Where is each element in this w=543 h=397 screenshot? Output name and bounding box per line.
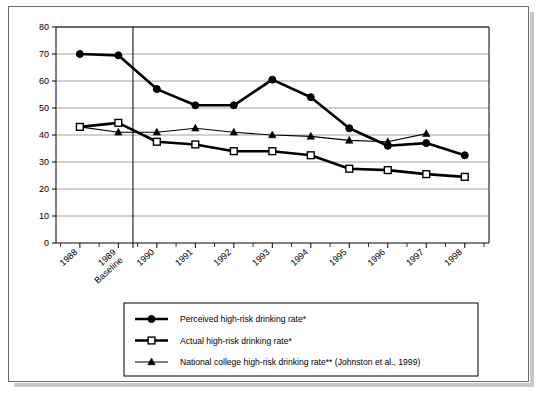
x-axis-tick-label: 1996 — [366, 247, 388, 268]
data-point-square — [148, 337, 155, 344]
y-axis-tick-label: 0 — [44, 238, 49, 248]
x-axis-tick-label: 1997 — [404, 247, 426, 268]
data-point-circle — [153, 86, 160, 93]
data-point-square — [307, 152, 314, 159]
y-axis-tick-label: 10 — [39, 211, 49, 221]
y-axis-tick-labels-group: 01020304050607080 — [39, 22, 49, 248]
data-point-circle — [346, 125, 353, 132]
x-axis-tick-label: 1998 — [443, 247, 465, 268]
legend-label: Perceived high-risk drinking rate* — [180, 314, 307, 324]
x-axis-tick-labels-group: 19881989Baseline199019911992199319941995… — [58, 247, 464, 285]
x-axis-tick-label-line: 1992 — [212, 247, 234, 268]
data-point-circle — [192, 102, 199, 109]
data-point-circle — [307, 94, 314, 101]
y-axis-tick-label: 80 — [39, 22, 49, 32]
x-axis-tick-label-line: 1991 — [173, 247, 195, 268]
legend-label: Actual high-risk drinking rate* — [180, 336, 292, 346]
x-axis-tick-label-line: 1994 — [289, 247, 311, 268]
data-point-square — [230, 148, 237, 155]
y-axis-tick-label: 70 — [39, 49, 49, 59]
data-point-square — [423, 171, 430, 178]
y-axis-tick-label: 30 — [39, 157, 49, 167]
data-point-square — [115, 119, 122, 126]
data-point-triangle — [192, 124, 199, 131]
x-axis-tick-label-line: 1996 — [366, 247, 388, 268]
data-point-circle — [76, 51, 83, 58]
series-line — [80, 54, 465, 155]
series-1 — [76, 51, 468, 159]
x-axis-tick-label: 1988 — [58, 247, 80, 268]
data-point-square — [76, 124, 83, 131]
data-point-circle — [269, 76, 276, 83]
x-axis-tick-label: 1995 — [327, 247, 349, 268]
data-point-square — [346, 165, 353, 172]
data-point-square — [384, 167, 391, 174]
data-point-square — [153, 138, 160, 145]
data-point-square — [461, 173, 468, 180]
data-point-circle — [384, 142, 391, 149]
data-point-square — [269, 148, 276, 155]
data-point-circle — [423, 140, 430, 147]
data-point-circle — [461, 152, 468, 159]
x-axis-tick-label-line: 1997 — [404, 247, 426, 268]
y-axis-tick-label: 20 — [39, 184, 49, 194]
y-axis-tick-label: 40 — [39, 130, 49, 140]
y-axis-ticks-group — [52, 27, 56, 243]
x-axis-tick-label: 1993 — [250, 247, 272, 268]
x-axis-tick-label-line: 1998 — [443, 247, 465, 268]
data-point-circle — [148, 316, 155, 323]
data-point-triangle — [423, 130, 430, 137]
line-chart: 01020304050607080 19881989Baseline199019… — [0, 0, 543, 397]
chart-legend: Perceived high-risk drinking rate*Actual… — [124, 303, 478, 376]
data-point-circle — [230, 102, 237, 109]
x-axis-tick-label-line: 1993 — [250, 247, 272, 268]
x-axis-tick-label: 1991 — [173, 247, 195, 268]
x-axis-tick-label-line: 1995 — [327, 247, 349, 268]
x-axis-tick-label: 1992 — [212, 247, 234, 268]
x-axis-tick-label-line: 1988 — [58, 247, 80, 268]
x-axis-ticks-group — [61, 243, 484, 248]
x-axis-tick-label: 1989Baseline — [85, 247, 124, 285]
series-2 — [76, 119, 468, 180]
x-axis-tick-label: 1994 — [289, 247, 311, 268]
data-point-circle — [115, 52, 122, 59]
y-axis-tick-label: 50 — [39, 103, 49, 113]
legend-label: National college high-risk drinking rate… — [180, 357, 420, 367]
data-series-layer — [76, 51, 468, 181]
data-point-square — [192, 141, 199, 148]
x-axis-tick-label: 1990 — [135, 247, 157, 268]
y-axis-tick-label: 60 — [39, 76, 49, 86]
chart-container: 01020304050607080 19881989Baseline199019… — [0, 0, 543, 397]
x-axis-tick-label-line: 1990 — [135, 247, 157, 268]
